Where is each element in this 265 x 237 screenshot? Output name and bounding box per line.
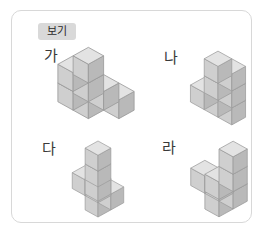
screenshot-root: 보기 가 나 다 라 [0,0,265,237]
figure-label-ra: 라 [162,141,176,156]
boki-tag: 보기 [38,23,76,40]
cube-figure-ra [177,139,261,219]
cube-figure-ga [55,45,137,121]
figure-panel: 보기 가 나 다 라 [11,10,252,223]
figure-label-da: 다 [42,142,56,157]
cube-figure-na [178,49,258,127]
figure-label-na: 나 [164,51,178,66]
cube-figure-da [57,139,139,219]
